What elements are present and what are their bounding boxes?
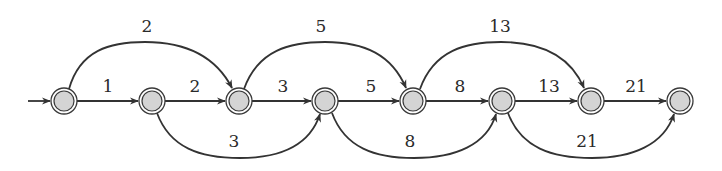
label-n6-n7: 21 bbox=[625, 76, 647, 96]
edge-n2-n4 bbox=[244, 42, 406, 89]
label-n3-n4: 5 bbox=[366, 76, 377, 96]
label-n0-n1: 1 bbox=[103, 76, 114, 96]
top-arc-edges bbox=[69, 42, 584, 89]
label-n0-n2: 2 bbox=[142, 16, 153, 36]
label-n4-n5: 8 bbox=[455, 76, 466, 96]
state-node-6 bbox=[578, 88, 604, 114]
label-n2-n3: 3 bbox=[278, 76, 289, 96]
state-node-2 bbox=[226, 88, 252, 114]
fibonacci-transition-diagram: 1 2 3 5 8 13 21 2 5 13 3 8 21 bbox=[0, 0, 722, 171]
state-node-0 bbox=[51, 88, 77, 114]
state-node-5 bbox=[489, 88, 515, 114]
edge-labels: 1 2 3 5 8 13 21 2 5 13 3 8 21 bbox=[103, 16, 647, 151]
label-n2-n4: 5 bbox=[316, 16, 327, 36]
state-node-3 bbox=[312, 88, 338, 114]
label-n5-n6: 13 bbox=[538, 76, 560, 96]
label-n1-n3: 3 bbox=[229, 131, 240, 151]
state-node-7 bbox=[667, 88, 693, 114]
edge-n0-n2 bbox=[69, 42, 232, 89]
label-n5-n7: 21 bbox=[576, 131, 598, 151]
state-node-4 bbox=[400, 88, 426, 114]
label-n4-n6: 13 bbox=[489, 16, 511, 36]
label-n1-n2: 2 bbox=[190, 76, 201, 96]
label-n3-n5: 8 bbox=[405, 131, 416, 151]
state-node-1 bbox=[139, 88, 165, 114]
